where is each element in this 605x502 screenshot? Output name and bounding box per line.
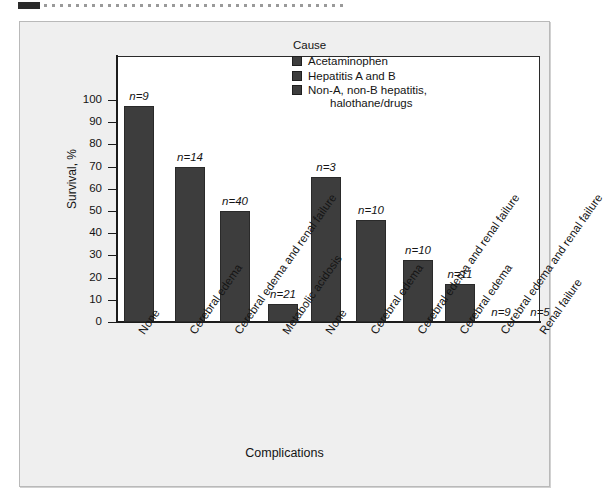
y-axis-tick-label: 0 <box>56 316 102 328</box>
figure-frame: 1009080706050403020100 Survival, % n=9n=… <box>19 21 550 487</box>
bar-n-label: n=3 <box>299 162 353 174</box>
legend-label: Acetaminophen <box>308 55 388 68</box>
y-axis-tick <box>108 278 116 279</box>
legend-item: Non-A, non-B hepatitis,halothane/drugs <box>292 84 462 109</box>
y-axis-tick-label: 90 <box>56 116 102 128</box>
legend-swatch <box>292 85 302 95</box>
y-axis-tick-label: 20 <box>56 272 102 284</box>
y-axis-tick-label: 80 <box>56 138 102 150</box>
x-axis-title: Complications <box>20 446 549 460</box>
legend-label-continuation: halothane/drugs <box>308 97 427 110</box>
legend-items: AcetaminophenHepatitis A and BNon-A, non… <box>292 55 462 109</box>
legend-swatch <box>292 71 302 81</box>
scan-dotted-rule <box>44 4 344 7</box>
y-axis-tick <box>108 122 116 123</box>
bar-n-label: n=9 <box>112 91 166 103</box>
y-axis-tick-label: 60 <box>56 183 102 195</box>
legend: Cause AcetaminophenHepatitis A and BNon-… <box>292 39 462 111</box>
y-axis-tick-label: 100 <box>56 94 102 106</box>
y-axis-tick <box>108 322 116 323</box>
y-axis-tick <box>108 167 116 168</box>
y-axis-tick <box>108 300 116 301</box>
bar-n-label: n=10 <box>344 205 398 217</box>
y-axis-tick-label: 50 <box>56 205 102 217</box>
y-axis-tick <box>108 255 116 256</box>
legend-label: Non-A, non-B hepatitis,halothane/drugs <box>308 84 427 109</box>
bar <box>356 220 386 322</box>
y-axis-tick-label: 10 <box>56 294 102 306</box>
y-axis-tick <box>108 144 116 145</box>
y-axis-title: Survival, % <box>65 119 79 239</box>
y-axis-tick-label: 30 <box>56 249 102 261</box>
y-axis-tick-label: 70 <box>56 161 102 173</box>
y-axis-tick <box>108 211 116 212</box>
y-axis-tick <box>108 233 116 234</box>
y-axis-tick-label: 40 <box>56 227 102 239</box>
scan-black-mark <box>18 2 40 9</box>
scan-artifact-strip <box>0 0 565 14</box>
bar <box>175 167 205 322</box>
legend-item: Acetaminophen <box>292 55 462 68</box>
y-axis-tick <box>108 189 116 190</box>
legend-label: Hepatitis A and B <box>308 70 396 83</box>
bar-n-label: n=10 <box>391 245 445 257</box>
legend-swatch <box>292 56 302 66</box>
bar-n-label: n=40 <box>208 196 262 208</box>
bar-n-label: n=14 <box>163 152 217 164</box>
bar <box>124 106 154 322</box>
legend-title: Cause <box>293 39 462 51</box>
legend-item: Hepatitis A and B <box>292 70 462 83</box>
